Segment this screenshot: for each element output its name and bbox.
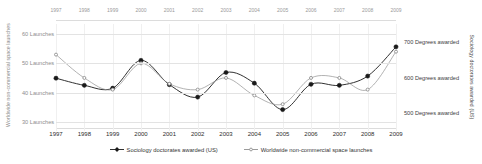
data-point-marker (366, 74, 370, 78)
legend-label: Sociology doctorates awarded (US) (127, 147, 218, 153)
spurious-correlation-chart: Worldwide non-commercial space launches … (0, 0, 482, 164)
data-point-marker (338, 76, 341, 79)
gridline (56, 63, 396, 64)
filled-diamond-marker (110, 146, 124, 153)
data-point-marker (281, 108, 285, 112)
data-point-marker (168, 82, 171, 85)
data-point-marker (309, 82, 313, 86)
data-point-marker (82, 83, 86, 87)
chart-legend: Sociology doctorates awarded (US)Worldwi… (0, 146, 482, 153)
data-point-marker (394, 45, 398, 49)
data-point-marker (224, 70, 228, 74)
data-point-marker (83, 76, 86, 79)
data-point-marker (310, 76, 313, 79)
gridline (56, 122, 396, 123)
legend-item[interactable]: Sociology doctorates awarded (US) (110, 146, 218, 153)
series-lines (0, 0, 482, 164)
data-point-marker (395, 50, 398, 53)
data-point-marker (281, 103, 284, 106)
data-point-marker (253, 94, 256, 97)
data-point-marker (196, 95, 200, 99)
data-point-marker (111, 88, 114, 91)
legend-label: Worldwide non-commercial space launches (261, 147, 373, 153)
legend-item[interactable]: Worldwide non-commercial space launches (244, 146, 373, 153)
gridline (56, 93, 396, 94)
data-point-marker (225, 76, 228, 79)
data-point-marker (55, 53, 58, 56)
open-dot-marker (244, 146, 258, 153)
gridline (56, 34, 396, 35)
data-point-marker (366, 88, 369, 91)
data-point-marker (252, 81, 256, 85)
data-point-marker (54, 76, 58, 80)
data-point-marker (337, 83, 341, 87)
data-point-marker (196, 88, 199, 91)
